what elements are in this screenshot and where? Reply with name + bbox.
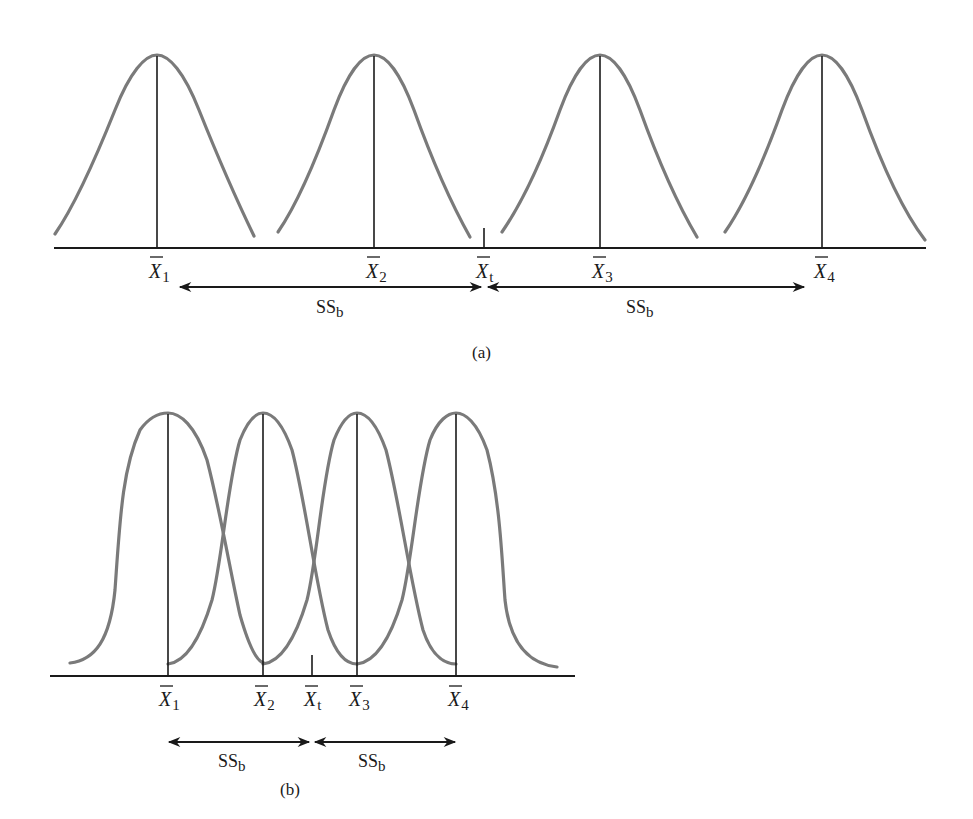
mean-label-x3: X3 <box>591 257 613 285</box>
svg-text:X2: X2 <box>365 260 387 285</box>
distribution-curve-4 <box>725 55 925 240</box>
anova-ss-between-diagram: X1 X2 Xt X3 X4 SSb SSb <box>0 0 973 819</box>
mean-label-x1: X1 <box>148 257 170 285</box>
mean-label-x2: X2 <box>253 686 275 713</box>
panel-a: X1 X2 Xt X3 X4 SSb SSb <box>54 55 926 362</box>
svg-text:X1: X1 <box>148 260 170 285</box>
mean-label-x3: X3 <box>348 686 370 713</box>
grand-mean-label: Xt <box>475 257 494 285</box>
mean-label-x4: X4 <box>813 257 835 285</box>
distribution-curve-1 <box>55 55 254 236</box>
svg-text:X1: X1 <box>158 688 180 713</box>
ss-between-label-right: SSb <box>358 751 386 774</box>
panel-caption-b: (b) <box>280 780 300 799</box>
svg-text:X3: X3 <box>591 260 613 285</box>
distribution-curve-1 <box>70 413 264 663</box>
svg-text:Xt: Xt <box>303 688 322 713</box>
mean-label-x2: X2 <box>365 257 387 285</box>
svg-text:Xt: Xt <box>475 260 494 285</box>
ss-between-label-left: SSb <box>218 751 246 774</box>
grand-mean-label: Xt <box>303 686 322 713</box>
ss-between-label-right: SSb <box>626 297 654 320</box>
mean-label-x4: X4 <box>447 686 469 713</box>
panel-caption-a: (a) <box>472 343 491 362</box>
mean-label-x1: X1 <box>158 686 180 713</box>
svg-text:X3: X3 <box>348 688 370 713</box>
svg-text:X4: X4 <box>813 260 835 285</box>
svg-text:X2: X2 <box>253 688 275 713</box>
svg-text:X4: X4 <box>447 688 469 713</box>
panel-b: X1 X2 Xt X3 X4 SSb SSb (b) <box>50 413 575 799</box>
ss-between-label-left: SSb <box>316 297 344 320</box>
